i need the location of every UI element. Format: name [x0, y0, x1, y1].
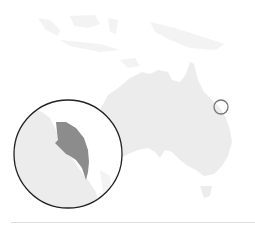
tasmania	[200, 186, 212, 198]
divider	[11, 222, 255, 223]
northern-islands	[38, 15, 225, 68]
locator-map	[0, 0, 255, 232]
inset-magnifier	[10, 100, 122, 210]
